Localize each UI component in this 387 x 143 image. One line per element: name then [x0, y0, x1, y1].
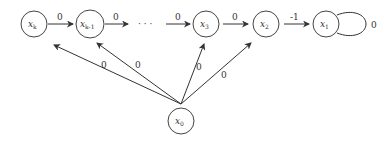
edge-x0-xk1	[97, 43, 181, 104]
edge-weight: 0	[371, 20, 377, 30]
edge-weight: 0	[221, 70, 227, 80]
node-x0: x0	[168, 108, 194, 134]
edge-weight: 0	[196, 62, 202, 72]
edge-weight: -1	[290, 12, 299, 22]
edge-x0-x2	[181, 43, 251, 104]
node-x2: x2	[253, 11, 279, 37]
edge-weight: 0	[57, 12, 63, 22]
edge-x0-x3	[181, 44, 204, 104]
edge-x1-self-loop	[337, 12, 366, 35]
graph-diagram: 0 0 · · · 0 0 -1 0 0 0 0 0 xk xk-1 x3 x2…	[0, 0, 387, 143]
edge-weight: 0	[101, 60, 107, 70]
ellipsis: · · ·	[138, 19, 152, 29]
edge-weight: 0	[135, 60, 141, 70]
node-x3: x3	[193, 11, 219, 37]
edge-x0-xk	[54, 45, 181, 104]
edge-weight: 0	[175, 12, 181, 22]
node-x1: x1	[313, 11, 339, 37]
node-xk: xk	[21, 11, 47, 37]
edge-weight: 0	[113, 12, 119, 22]
edge-weight: 0	[232, 12, 238, 22]
node-xk-1: xk-1	[76, 10, 104, 38]
